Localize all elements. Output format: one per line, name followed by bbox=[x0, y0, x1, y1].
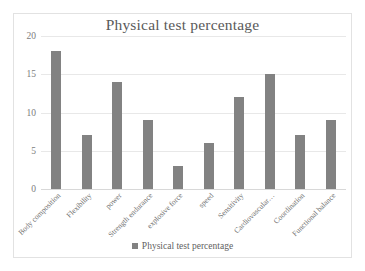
bar[interactable] bbox=[143, 120, 153, 189]
bar[interactable] bbox=[295, 135, 305, 189]
y-axis-tick-label: 5 bbox=[31, 146, 36, 156]
x-axis-category-label: speed bbox=[197, 191, 216, 210]
x-axis-category-label: Sensitivity bbox=[216, 191, 245, 220]
bar-slot bbox=[255, 36, 286, 189]
y-axis-tick-label: 0 bbox=[31, 184, 36, 194]
x-axis-category-label: power bbox=[104, 191, 124, 211]
chart-figure: Physical test percentage 05101520 Body c… bbox=[13, 13, 352, 258]
x-axis-category-label: Flexibility bbox=[64, 191, 93, 220]
bar-slot bbox=[224, 36, 255, 189]
bars-group bbox=[41, 36, 346, 189]
bar-slot bbox=[72, 36, 103, 189]
bar-slot bbox=[285, 36, 316, 189]
bar[interactable] bbox=[204, 143, 214, 189]
bar[interactable] bbox=[234, 97, 244, 189]
x-axis-category-label: Body composition bbox=[17, 191, 63, 237]
bar[interactable] bbox=[112, 82, 122, 189]
y-axis-tick-label: 10 bbox=[27, 108, 37, 118]
bar[interactable] bbox=[82, 135, 92, 189]
bar-slot bbox=[41, 36, 72, 189]
bar-slot bbox=[316, 36, 347, 189]
legend-square-marker-icon bbox=[132, 243, 138, 249]
legend-label: Physical test percentage bbox=[142, 241, 233, 251]
plot-area: 05101520 bbox=[41, 36, 346, 189]
bar-slot bbox=[102, 36, 133, 189]
bar[interactable] bbox=[51, 51, 61, 189]
chart-legend: Physical test percentage bbox=[14, 241, 351, 251]
y-axis-tick-label: 20 bbox=[27, 31, 37, 41]
bar[interactable] bbox=[265, 74, 275, 189]
chart-title: Physical test percentage bbox=[14, 16, 351, 34]
bar[interactable] bbox=[173, 166, 183, 189]
bar[interactable] bbox=[326, 120, 336, 189]
y-axis-tick-label: 15 bbox=[27, 69, 37, 79]
x-axis-labels: Body compositionFlexibilitypowerStrength… bbox=[41, 189, 346, 249]
bar-slot bbox=[133, 36, 164, 189]
bar-slot bbox=[163, 36, 194, 189]
bar-slot bbox=[194, 36, 225, 189]
